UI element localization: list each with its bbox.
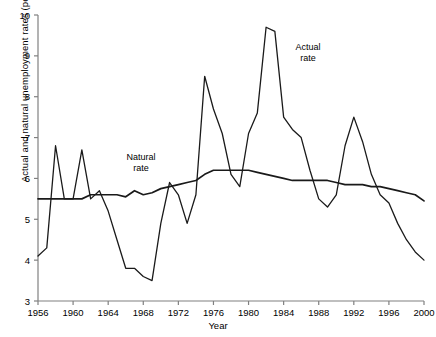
- actual-rate-annotation: Actual rate: [278, 42, 338, 63]
- y-tick-label: 4: [25, 255, 30, 266]
- x-tick-label: 1968: [133, 307, 154, 318]
- x-axis-ticks: 1956196019641968197219761980198419881992…: [27, 301, 434, 318]
- x-tick-label: 1992: [343, 307, 364, 318]
- x-axis-title: Year: [0, 320, 436, 331]
- y-tick-label: 5: [25, 214, 30, 225]
- axis-layer: 345678910 195619601964196819721976198019…: [19, 10, 434, 318]
- x-tick-label: 1988: [308, 307, 329, 318]
- actual-rate-annotation-line2: rate: [278, 53, 338, 64]
- x-tick-label: 1984: [273, 307, 294, 318]
- x-tick-label: 1980: [238, 307, 259, 318]
- x-tick-label: 1976: [203, 307, 224, 318]
- actual-rate-annotation-line1: Actual: [278, 42, 338, 53]
- y-axis-title: Actual and natural unemployment rates (p…: [19, 0, 30, 196]
- natural-rate-annotation-line1: Natural: [110, 152, 172, 163]
- x-tick-label: 1996: [378, 307, 399, 318]
- natural-rate-annotation-line2: rate: [110, 163, 172, 174]
- x-tick-label: 1964: [98, 307, 119, 318]
- data-series-layer: [38, 27, 424, 280]
- x-tick-label: 1960: [63, 307, 84, 318]
- unemployment-rate-chart: 345678910 195619601964196819721976198019…: [0, 0, 436, 337]
- x-tick-label: 1956: [27, 307, 48, 318]
- x-tick-label: 1972: [168, 307, 189, 318]
- x-tick-label: 2000: [413, 307, 434, 318]
- chart-plot-area: 345678910 195619601964196819721976198019…: [0, 0, 436, 337]
- actual-rate-line: [38, 27, 424, 280]
- natural-rate-annotation: Natural rate: [110, 152, 172, 173]
- y-tick-label: 3: [25, 296, 30, 307]
